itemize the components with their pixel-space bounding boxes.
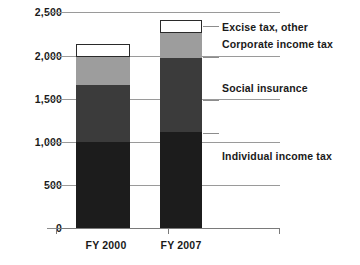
bar-fy-2000: [76, 44, 130, 228]
bar-segment-individual-fy-2000: [76, 142, 130, 228]
series-label-corporate: Corporate income tax: [222, 38, 333, 50]
bar-segment-individual-fy-2007: [160, 132, 202, 228]
leader-line-social: [203, 100, 219, 101]
bar-segment-excise-fy-2000: [76, 44, 130, 57]
bar-segment-corporate-fy-2007: [160, 33, 202, 58]
bar-segment-corporate-fy-2000: [76, 57, 130, 85]
bar-segment-excise-fy-2007: [160, 20, 202, 33]
x-tick-mark-left: [56, 229, 57, 234]
y-tick-mark-2000: [47, 56, 56, 57]
leader-line-individual: [203, 133, 219, 134]
plot-area: 2,500 2,000 1,500 1,000 500 0: [0, 0, 360, 265]
bar-segment-social-fy-2000: [76, 85, 130, 142]
y-tick-mark-500: [47, 185, 56, 186]
series-label-social: Social insurance: [222, 82, 308, 94]
gridline-2500: [56, 12, 280, 13]
stacked-bar-chart: 2,500 2,000 1,500 1,000 500 0: [0, 0, 360, 265]
y-tick-mark-2500: [47, 12, 56, 13]
bar-segment-social-fy-2007: [160, 58, 202, 132]
series-label-excise: Excise tax, other: [222, 21, 308, 33]
series-label-individual: Individual income tax: [222, 150, 332, 162]
x-tick-mark-middle: [168, 229, 169, 234]
x-axis-label-fy-2007: FY 2007: [136, 239, 226, 251]
y-tick-mark-1500: [47, 99, 56, 100]
x-tick-mark-right: [279, 229, 280, 234]
y-tick-mark-0: [47, 228, 56, 229]
bar-fy-2007: [160, 20, 202, 228]
y-tick-mark-1000: [47, 142, 56, 143]
leader-line-excise: [203, 26, 219, 27]
leader-line-corporate: [203, 57, 219, 58]
